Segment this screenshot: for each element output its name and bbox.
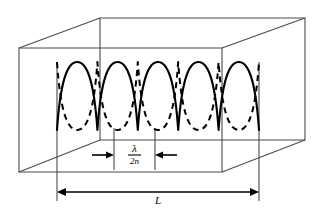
cavity-box [19,18,305,172]
half-wavelength-numerator-label: λ [131,142,137,154]
half-wavelength-arrowhead-left [106,151,114,158]
box-edge-bottom-right [222,140,305,172]
half-wavelength-denominator-label: 2n [130,156,140,166]
cavity-length-label: L [154,194,161,206]
box-edge-top-left [19,18,100,48]
half-wavelength-dimension: λ 2n [92,142,177,166]
box-edge-bottom-left [19,140,100,172]
cavity-length-dimension: L [57,188,259,206]
half-wavelength-arrowhead-right [155,151,163,158]
wave-boundary-planes [57,62,259,201]
cavity-length-arrowhead-right [250,188,259,196]
cavity-length-arrowhead-left [57,188,66,196]
figure-canvas: λ 2n L [0,0,321,215]
standing-wave-cavity-figure: λ 2n L [0,0,321,215]
box-edge-top-right [222,18,305,48]
